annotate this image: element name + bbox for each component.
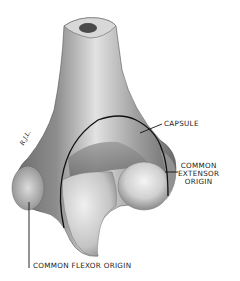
label-line: ORIGIN xyxy=(178,178,219,186)
capitulum xyxy=(118,162,170,210)
trochlea xyxy=(62,172,117,256)
humerus-illustration xyxy=(0,0,240,281)
label-common-extensor-origin: COMMON EXTENSOR ORIGIN xyxy=(178,162,219,186)
label-capsule: CAPSULE xyxy=(164,120,199,128)
medullary-cavity xyxy=(79,23,97,33)
label-common-flexor-origin: COMMON FLEXOR ORIGIN xyxy=(33,262,131,270)
medial-epicondyle xyxy=(12,166,44,210)
